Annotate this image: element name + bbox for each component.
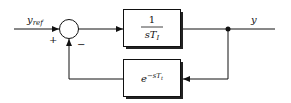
summing-circle <box>60 20 79 39</box>
forward-block: 1 sTI <box>124 10 184 50</box>
input-label: yref <box>26 14 44 27</box>
feedback-block: e−sTt <box>124 60 184 100</box>
forward-numerator: 1 <box>149 14 155 25</box>
block-diagram: yref + − 1 sTI y e−sTt <box>0 0 291 103</box>
plus-sign: + <box>49 34 57 45</box>
minus-sign: − <box>77 39 85 50</box>
feedback-arrow-in <box>183 29 228 79</box>
input-signal: yref <box>14 14 59 29</box>
summing-junction: + − <box>49 20 85 51</box>
output-label: y <box>250 14 257 25</box>
